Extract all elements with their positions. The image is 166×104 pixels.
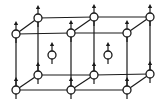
- corner-atom: [12, 86, 20, 94]
- corner-atom: [12, 30, 20, 38]
- corner-atom: [34, 14, 42, 22]
- body-center-atom: [48, 51, 56, 59]
- corner-atom: [123, 86, 131, 94]
- corner-atom: [123, 29, 131, 37]
- corner-atom: [90, 13, 98, 21]
- corner-atom: [34, 71, 42, 79]
- corner-atom: [146, 70, 154, 78]
- body-center-atom: [104, 51, 112, 59]
- lattice-bond: [38, 17, 94, 18]
- lattice-bond: [94, 74, 150, 75]
- corner-atom: [90, 71, 98, 79]
- corner-atom: [67, 29, 75, 37]
- lattice-bond: [16, 33, 71, 34]
- bcc-lattice-diagram: [0, 0, 166, 104]
- corner-atom: [67, 86, 75, 94]
- corner-atom: [146, 13, 154, 21]
